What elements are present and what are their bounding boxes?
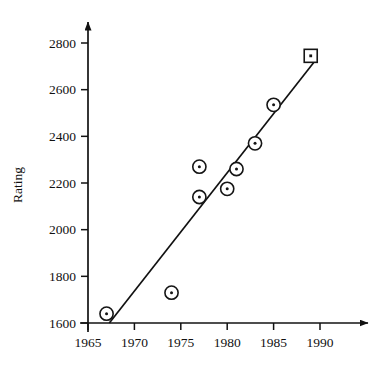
data-point-circle-center <box>226 187 229 190</box>
data-markers <box>100 49 317 320</box>
y-tick-label: 2400 <box>49 129 76 144</box>
data-point-square-center <box>309 54 312 57</box>
y-tick-label: 2000 <box>49 222 76 237</box>
x-tick-label: 1980 <box>214 335 241 350</box>
y-tick-label: 1800 <box>49 269 76 284</box>
x-tick-label: 1975 <box>167 335 194 350</box>
y-axis-ticks: 1600180020002200240026002800 <box>49 36 88 331</box>
scatter-chart: 1600180020002200240026002800 19651970197… <box>0 0 381 366</box>
data-point-circle-center <box>198 165 201 168</box>
y-tick-label: 2200 <box>49 176 76 191</box>
x-tick-label: 1965 <box>75 335 102 350</box>
trend-line-segment <box>109 59 316 323</box>
data-point-circle-center <box>198 196 201 199</box>
regression-line <box>109 59 316 323</box>
data-point-circle-center <box>235 168 238 171</box>
data-point-circle-center <box>254 142 257 145</box>
y-tick-label: 2800 <box>49 36 76 51</box>
data-point-circle-center <box>105 312 108 315</box>
y-tick-label: 2600 <box>49 82 76 97</box>
x-tick-label: 1985 <box>260 335 287 350</box>
y-axis-title: Rating <box>10 167 25 203</box>
y-tick-label: 1600 <box>49 316 76 331</box>
data-point-circle-center <box>170 291 173 294</box>
chart-canvas: 1600180020002200240026002800 19651970197… <box>0 0 381 366</box>
x-tick-label: 1990 <box>307 335 334 350</box>
data-point-circle-center <box>272 103 275 106</box>
x-tick-label: 1970 <box>121 335 148 350</box>
x-axis-ticks: 196519701975198019851990 <box>75 323 334 350</box>
